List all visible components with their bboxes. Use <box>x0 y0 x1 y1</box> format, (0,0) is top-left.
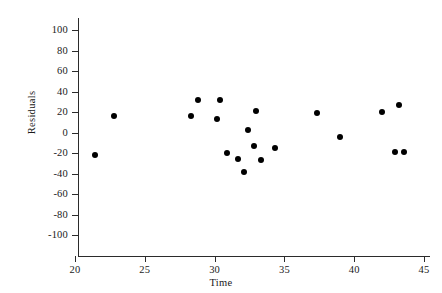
y-tick-label: -80 <box>24 210 68 221</box>
plot-area <box>78 18 428 255</box>
data-point <box>251 143 257 149</box>
x-axis-line <box>78 256 430 257</box>
x-tick-label: 30 <box>195 264 235 275</box>
data-point <box>314 110 320 116</box>
y-tick-label: -40 <box>24 169 68 180</box>
y-axis-title: Residuals <box>26 78 37 148</box>
data-point <box>92 152 98 158</box>
data-point <box>195 97 201 103</box>
data-point <box>217 97 223 103</box>
x-tick-mark <box>284 256 285 262</box>
data-point <box>337 134 343 140</box>
y-tick-label: 100 <box>24 25 68 36</box>
x-tick-label: 45 <box>404 264 442 275</box>
x-tick-label: 25 <box>125 264 165 275</box>
data-point <box>392 149 398 155</box>
x-tick-mark <box>354 256 355 262</box>
x-axis-title: Time <box>0 277 442 288</box>
y-tick-label: -20 <box>24 148 68 159</box>
data-point <box>396 102 402 108</box>
y-tick-label: -60 <box>24 189 68 200</box>
x-tick-mark <box>75 256 76 262</box>
y-tick-label: 60 <box>24 66 68 77</box>
y-tick-label: -100 <box>24 230 68 241</box>
scatter-plot-figure: 100806040200-20-40-60-80-100 20253035404… <box>0 0 442 293</box>
x-tick-label: 40 <box>334 264 374 275</box>
data-point <box>188 113 194 119</box>
data-point <box>272 145 278 151</box>
x-tick-mark <box>215 256 216 262</box>
x-tick-label: 35 <box>264 264 304 275</box>
y-tick-label: 80 <box>24 46 68 57</box>
x-tick-mark <box>424 256 425 262</box>
x-tick-label: 20 <box>55 264 95 275</box>
data-point <box>258 157 264 163</box>
x-tick-mark <box>145 256 146 262</box>
